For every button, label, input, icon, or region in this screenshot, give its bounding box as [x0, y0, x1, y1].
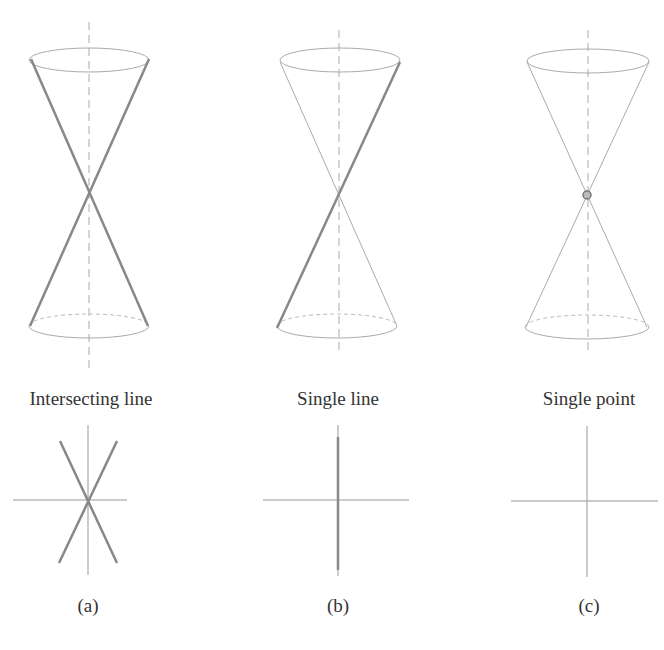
plot-b [263, 425, 409, 576]
panel-c-sublabel: (c) [578, 595, 599, 617]
conic-sections-figure [0, 0, 664, 650]
cone-b-top-ellipse [280, 48, 400, 72]
panel-b-sublabel: (b) [327, 595, 349, 617]
panel-c-title: Single point [543, 388, 635, 410]
panel-a-sublabel: (a) [77, 595, 98, 617]
cone-b [277, 30, 400, 350]
panel-b-title: Single line [297, 388, 379, 410]
cone-c-point [583, 191, 591, 199]
cone-b-bottom-ellipse-back [277, 314, 397, 326]
plot-c [511, 426, 658, 577]
plot-a [13, 425, 127, 575]
cone-b-bottom-ellipse-front [277, 326, 397, 338]
panel-a-title: Intersecting line [30, 388, 153, 410]
cone-c-bottom-ellipse-back [525, 315, 649, 327]
cone-a [29, 22, 149, 372]
cone-c-bottom-ellipse-front [525, 327, 649, 339]
cone-c [525, 30, 649, 350]
